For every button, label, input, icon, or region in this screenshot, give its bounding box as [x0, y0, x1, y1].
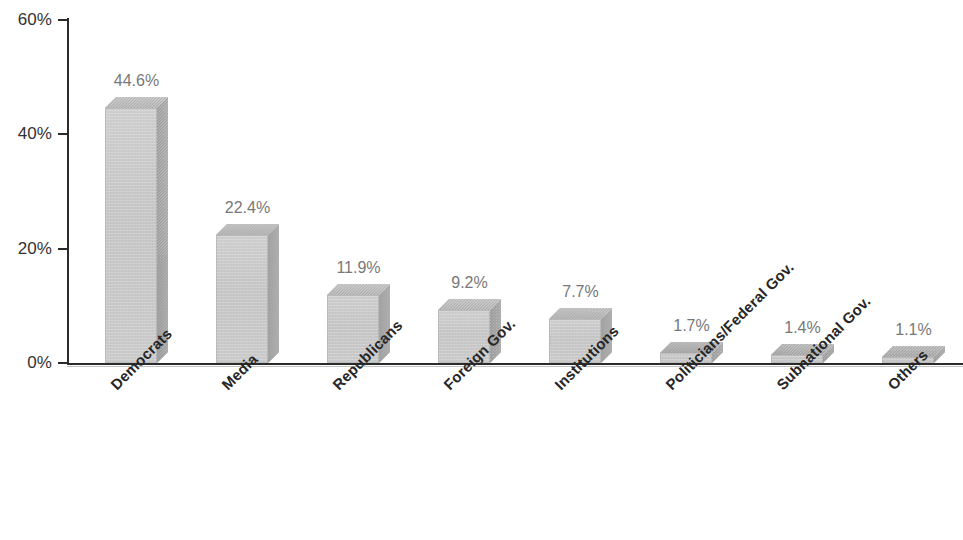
bar-side-face [157, 97, 168, 363]
bar-column [105, 97, 168, 363]
y-tick-label: 60% [0, 11, 52, 28]
bar-column [216, 224, 279, 363]
bar-value-label: 9.2% [425, 275, 515, 291]
bar-front-face [216, 235, 268, 363]
y-tick-label: 0% [0, 354, 52, 371]
y-tick-mark-20 [58, 248, 67, 250]
bar-top-face [216, 224, 279, 235]
bar-value-label: 22.4% [203, 200, 293, 216]
bar-value-label: 1.1% [869, 322, 959, 338]
bar-top-face [327, 284, 390, 295]
bar-value-label: 7.7% [536, 284, 626, 300]
y-axis-line [67, 18, 69, 365]
y-tick-label: 20% [0, 240, 52, 257]
bar-front-face [105, 108, 157, 363]
y-tick-mark-40 [58, 133, 67, 135]
y-tick-mark-60 [58, 19, 67, 21]
bar-value-label: 44.6% [92, 73, 182, 89]
bar-top-face [105, 97, 168, 108]
x-axis-line [67, 363, 963, 365]
x-category-label: Subnational Gov. [773, 292, 874, 393]
bar-side-face [268, 224, 279, 363]
bar-chart: 0%20%40%60% 44.6%22.4%11.9%9.2%7.7%1.7%1… [0, 0, 963, 540]
plot-area: 0%20%40%60% 44.6%22.4%11.9%9.2%7.7%1.7%1… [0, 0, 963, 540]
y-tick-label: 40% [0, 125, 52, 142]
bar-top-face [549, 308, 612, 319]
bar-value-label: 11.9% [314, 260, 404, 276]
y-tick-mark-0 [58, 362, 67, 364]
